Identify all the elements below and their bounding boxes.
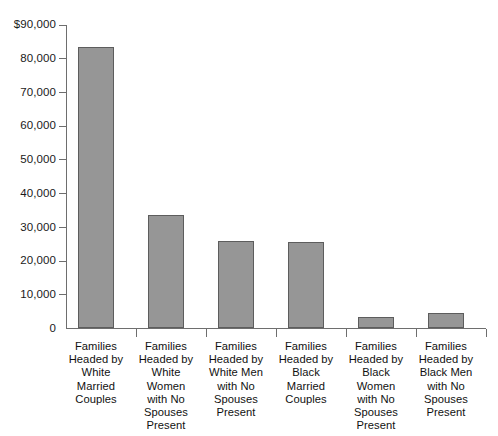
x-tick-mark-5: [416, 329, 417, 337]
y-tick-label-0: 0: [0, 323, 56, 335]
x-category-label-white-married-couples: Families Headed by White Married Couples: [62, 340, 130, 406]
y-tick-label-60000: 60,000: [0, 120, 56, 132]
x-tick-mark-4: [346, 329, 347, 337]
bar-black-men-no-spouses: [428, 313, 464, 328]
y-tick-label-50000-wrap: 50,000: [0, 154, 56, 166]
y-tick-label-20000-wrap: 20,000: [0, 255, 56, 267]
y-tick-label-20000: 20,000: [0, 255, 56, 267]
bar-white-men-no-spouses: [218, 241, 254, 328]
bar-chart: $90,000 80,000 70,000 60,000 50,000 40,0…: [0, 0, 498, 436]
y-tick-label-40000-wrap: 40,000: [0, 188, 56, 200]
bar-black-married-couples: [288, 242, 324, 328]
y-tick-label-80000: 80,000: [0, 53, 56, 65]
y-tick-label-10000-wrap: 10,000: [0, 289, 56, 301]
y-tick-label-90000-wrap: $90,000: [0, 19, 56, 31]
x-tick-mark-3: [276, 329, 277, 337]
bar-black-women-no-spouses: [358, 317, 394, 328]
x-category-label-black-women-no-spouses: Families Headed by Black Women with No S…: [342, 340, 410, 432]
y-tick-label-80000-wrap: 80,000: [0, 53, 56, 65]
x-category-label-black-men-no-spouses: Families Headed by Black Men with No Spo…: [412, 340, 480, 419]
y-tick-label-40000: 40,000: [0, 188, 56, 200]
y-tick-label-60000-wrap: 60,000: [0, 120, 56, 132]
x-category-label-black-married-couples: Families Headed by Black Married Couples: [272, 340, 340, 406]
x-category-label-white-women-no-spouses: Families Headed by White Women with No S…: [132, 340, 200, 432]
y-tick-label-30000: 30,000: [0, 222, 56, 234]
y-tick-label-0-wrap: 0: [0, 323, 56, 335]
x-tick-mark-1: [136, 329, 137, 337]
y-tick-label-30000-wrap: 30,000: [0, 222, 56, 234]
y-tick-label-50000: 50,000: [0, 154, 56, 166]
bar-white-women-no-spouses: [148, 215, 184, 328]
y-axis-line: [66, 25, 67, 329]
x-category-label-white-men-no-spouses: Families Headed by White Men with No Spo…: [202, 340, 270, 419]
y-tick-label-90000: $90,000: [0, 19, 56, 31]
bar-white-married-couples: [78, 47, 114, 328]
y-tick-label-10000: 10,000: [0, 289, 56, 301]
x-tick-mark-6: [486, 329, 487, 337]
x-tick-mark-2: [206, 329, 207, 337]
y-tick-label-70000: 70,000: [0, 87, 56, 99]
y-tick-label-70000-wrap: 70,000: [0, 87, 56, 99]
